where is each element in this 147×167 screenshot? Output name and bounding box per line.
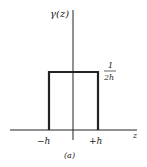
right-tick-label: +h	[89, 136, 102, 146]
left-tick-label: −h	[37, 136, 50, 146]
y-axis-label: γ(z)	[50, 8, 69, 19]
rect-function-diagram: γ(z) 1 2h −h +h z (a)	[0, 0, 147, 167]
x-axis-label: z	[132, 131, 138, 140]
caption: (a)	[64, 151, 75, 160]
height-numerator: 1	[108, 61, 113, 70]
height-denominator: 2h	[103, 73, 114, 82]
